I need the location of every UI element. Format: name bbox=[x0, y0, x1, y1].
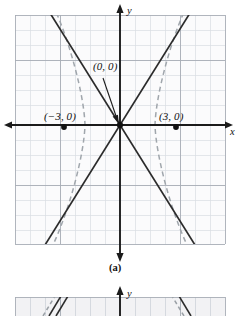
y-axis-arrow-bottom bbox=[116, 253, 123, 262]
hyperbola-figure: y x (0, 0) (−3, 0) (3, 0) (a) y bbox=[0, 0, 242, 316]
point-vertex-right bbox=[173, 124, 179, 130]
panel-b-y-axis-arrow bbox=[116, 286, 123, 295]
y-axis-label: y bbox=[127, 5, 132, 16]
point-vertex-left bbox=[61, 124, 67, 130]
vertex-right-label: (3, 0) bbox=[159, 110, 183, 122]
x-axis-label: x bbox=[230, 126, 235, 137]
vertex-left-label: (−3, 0) bbox=[44, 110, 76, 122]
panel-a bbox=[4, 4, 233, 262]
figure-caption-a: (a) bbox=[109, 262, 121, 273]
panel-b-partial bbox=[15, 286, 225, 316]
y-axis-arrow-top bbox=[116, 4, 123, 13]
panel-b-y-axis-label: y bbox=[127, 288, 132, 299]
x-axis-arrow-left bbox=[4, 121, 12, 128]
point-origin bbox=[117, 122, 123, 128]
origin-label: (0, 0) bbox=[93, 60, 117, 72]
